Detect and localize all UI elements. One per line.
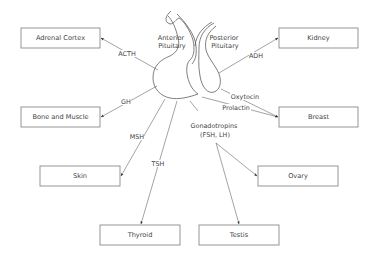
anterior-lobe-outline — [153, 11, 198, 99]
pituitary-gland — [153, 11, 220, 99]
target-label-testis: Testis — [229, 231, 249, 239]
target-box-breast: Breast — [279, 107, 358, 127]
target-label-thyroid: Thyroid — [127, 231, 153, 239]
target-label-bone-and-muscle: Bone and Muscle — [32, 113, 88, 121]
hormone-label-prolactin: Prolactin — [222, 104, 250, 112]
hormone-label-adh: ADH — [249, 52, 263, 60]
target-box-thyroid: Thyroid — [100, 225, 180, 245]
hormone-labels: ACTH ADH GH Oxytocin Prolactin MSH TSH G… — [118, 50, 263, 168]
target-label-kidney: Kidney — [307, 34, 330, 42]
hormone-label-gonadotropins: Gonadotropins (FSH, LH) — [191, 122, 240, 139]
edge-gonadotropins-ovary — [216, 143, 257, 176]
target-box-bone-and-muscle: Bone and Muscle — [21, 107, 100, 127]
target-box-adrenal-cortex: Adrenal Cortex — [21, 28, 100, 48]
target-label-ovary: Ovary — [288, 172, 308, 180]
target-box-skin: Skin — [40, 166, 120, 186]
edge-gonadotropins-testis — [216, 143, 239, 224]
hormone-label-msh: MSH — [130, 133, 145, 141]
hormone-label-gh: GH — [121, 98, 131, 106]
target-box-testis: Testis — [199, 225, 279, 245]
edges — [101, 38, 278, 224]
hormone-label-acth: ACTH — [118, 50, 136, 58]
pituitary-diagram: Anterior Pituitary Posterior Pituitary A… — [0, 0, 375, 259]
target-label-adrenal-cortex: Adrenal Cortex — [36, 34, 85, 42]
hormone-label-tsh: TSH — [151, 160, 165, 168]
hormone-label-oxytocin: Oxytocin — [231, 93, 259, 101]
anterior-pituitary-label: Anterior Pituitary — [158, 34, 187, 50]
target-box-kidney: Kidney — [279, 28, 358, 48]
target-label-skin: Skin — [73, 172, 87, 180]
target-label-breast: Breast — [308, 113, 330, 121]
posterior-pituitary-label: Posterior Pituitary — [209, 34, 240, 50]
target-box-ovary: Ovary — [258, 166, 338, 186]
edge-gonadotropins-stem — [190, 101, 198, 111]
